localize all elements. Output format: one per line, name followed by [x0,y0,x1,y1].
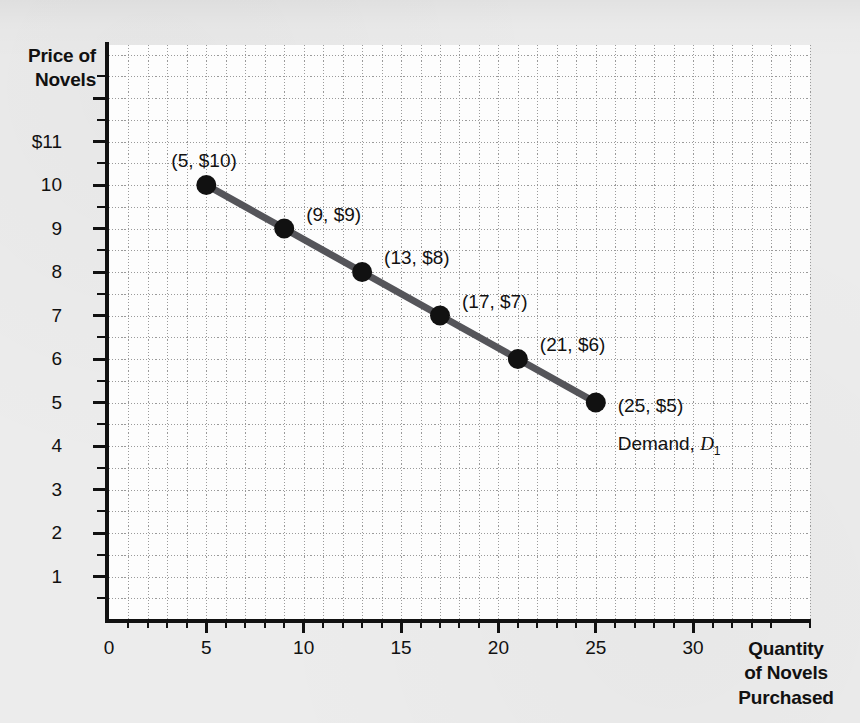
x-axis-tick-minor [770,619,772,628]
y-axis-tick-label: 4 [0,436,62,455]
x-axis-tick-minor [517,619,519,628]
y-axis-tick-label: 10 [0,175,62,194]
x-axis-tick-major [205,619,208,633]
data-point-marker [430,306,450,326]
y-axis-tick-minor [97,75,107,77]
x-axis-tick-minor [439,619,441,628]
demand-curve-symbol: D [700,433,714,454]
y-axis-tick-major [93,358,108,361]
x-axis-tick-minor [731,619,733,628]
y-axis-tick-major [93,140,108,143]
x-axis-tick-minor [536,619,538,628]
x-axis-tick-minor [186,619,188,628]
data-point-marker [196,175,216,195]
x-axis-tick-minor [712,619,714,628]
y-axis-title-line-2: Novels [0,68,96,92]
y-axis-tick-major [93,532,108,535]
x-axis-tick-minor [575,619,577,628]
y-axis-tick-label: 7 [0,306,62,325]
y-axis-tick-major [93,488,108,491]
y-axis-tick-major [93,445,108,448]
data-point-marker [508,349,528,369]
x-axis-tick-minor [361,619,363,628]
x-axis-tick-label: 10 [274,638,334,657]
demand-line [206,185,596,403]
data-point-marker [586,393,606,413]
x-axis-tick-minor [614,619,616,628]
x-axis-title-line-2: of Novels [716,661,856,685]
x-axis-tick-minor [264,619,266,628]
y-axis-tick-minor [97,510,107,512]
y-axis-tick-minor [97,554,107,556]
x-axis-tick-minor [381,619,383,628]
x-axis-tick-minor [751,619,753,628]
y-axis-tick-minor [97,423,107,425]
y-axis-tick-major [93,227,108,230]
x-axis-tick-minor [147,619,149,628]
demand-curve-subscript: 1 [714,443,721,457]
y-axis-tick-major [93,271,108,274]
x-axis-tick-minor [809,619,811,628]
y-axis-tick-minor [97,119,107,121]
x-axis-tick-minor [225,619,227,628]
y-axis-tick-minor [97,467,107,469]
y-axis-line [105,42,109,623]
y-axis-tick-major [93,401,108,404]
x-axis-tick-major [692,619,695,633]
y-axis-tick-major [93,184,108,187]
demand-series [109,45,810,620]
x-axis-title-line-3: Purchased [716,686,856,710]
y-axis-tick-major [93,97,108,100]
data-point-marker [274,219,294,239]
demand-curve-label-text: Demand, [618,433,700,454]
gridline-vertical [810,45,811,620]
x-axis-tick-label: 25 [566,638,626,657]
y-axis-tick-label: $11 [0,132,62,151]
x-axis-tick-minor [283,619,285,628]
y-axis-tick-label: 3 [0,480,62,499]
x-axis-tick-minor [166,619,168,628]
x-axis-tick-minor [322,619,324,628]
x-axis-tick-minor [556,619,558,628]
y-axis-tick-label: 5 [0,393,62,412]
data-point-marker [352,262,372,282]
x-axis-tick-minor [342,619,344,628]
demand-curve-label: Demand, D1 [618,434,721,457]
data-point-label: (17, $7) [462,292,527,311]
y-axis-tick-major [93,575,108,578]
x-axis-tick-major [302,619,305,633]
x-axis-tick-label: 30 [663,638,723,657]
y-axis-tick-minor [97,293,107,295]
x-axis-tick-major [594,619,597,633]
demand-curve-figure: Price of Novels Quantity of Novels Purch… [0,0,860,723]
data-point-label: (5, $10) [171,151,236,170]
data-point-label: (9, $9) [306,205,361,224]
y-axis-tick-label: 2 [0,523,62,542]
y-axis-tick-minor [97,336,107,338]
x-axis-title-line-1: Quantity [716,637,856,661]
x-axis-tick-label: 15 [371,638,431,657]
y-axis-title-line-1: Price of [0,44,96,68]
y-axis-tick-minor [97,162,107,164]
x-axis-tick-minor [634,619,636,628]
x-axis-tick-label: 20 [468,638,528,657]
x-axis-tick-major [400,619,403,633]
y-axis-tick-minor [97,597,107,599]
y-axis-title: Price of Novels [0,44,96,91]
y-axis-tick-major [93,314,108,317]
x-axis-tick-major [497,619,500,633]
x-axis-tick-minor [244,619,246,628]
x-axis-tick-minor [458,619,460,628]
plot-area [109,45,810,620]
y-axis-tick-minor [97,249,107,251]
x-axis-tick-label: 0 [79,638,139,657]
y-axis-tick-minor [97,206,107,208]
y-axis-tick-label: 6 [0,349,62,368]
data-point-label: (25, $5) [618,396,683,415]
y-axis-tick-label: 1 [0,567,62,586]
y-axis-tick-minor [97,380,107,382]
y-axis-tick-label: 8 [0,262,62,281]
x-axis-tick-minor [478,619,480,628]
y-axis-tick-label: 9 [0,219,62,238]
x-axis-tick-minor [127,619,129,628]
